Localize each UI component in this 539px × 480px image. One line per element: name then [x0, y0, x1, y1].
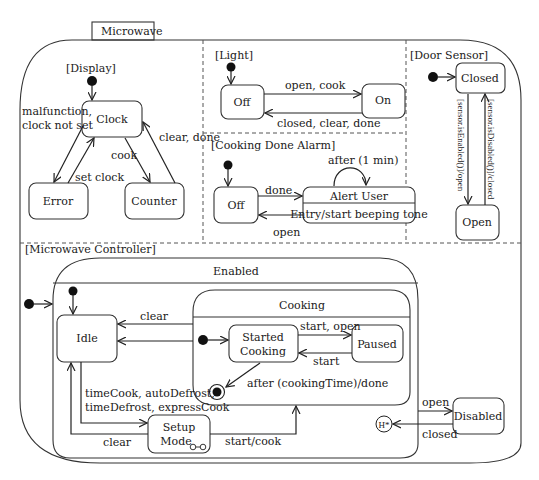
region-label-display: [Display] [66, 62, 116, 75]
transition-label-closed-clear-done: closed, clear, done [277, 117, 381, 130]
initial-state-icon [69, 287, 78, 296]
state-disabled-label: Disabled [454, 410, 503, 423]
transition-label-timecook: timeCook, autoDefrost, [85, 387, 215, 400]
initial-state-icon [227, 63, 236, 72]
state-alarm-off-label: Off [228, 199, 246, 212]
state-clock-label: Clock [96, 113, 128, 126]
initial-state-icon [224, 161, 233, 170]
transition-label-start-open: start, open [300, 320, 361, 333]
transition-label-malfunction: malfunction, [22, 105, 92, 118]
region-label-cooking-done-alarm: [Cooking Done Alarm] [211, 139, 335, 152]
state-setup-mode-label-1: Setup [163, 421, 196, 434]
region-display: [Display] Clock Error Counter malfunctio… [22, 62, 220, 219]
transition-label-cook: cook [111, 149, 137, 162]
diagram-title: Microwave [101, 25, 163, 38]
state-light-on-label: On [375, 94, 391, 107]
state-started-cooking-label-2: Cooking [240, 345, 286, 358]
transition-alert-self [334, 168, 366, 186]
initial-state-icon [24, 299, 34, 309]
state-cooking-label: Cooking [279, 299, 325, 312]
state-error-label: Error [43, 195, 74, 208]
transition-label-timedefrost: timeDefrost, expressCook [85, 401, 230, 414]
state-light-off-label: Off [234, 96, 252, 109]
transition-label-clear-cooking: clear [140, 310, 169, 323]
initial-state-icon [198, 335, 208, 345]
state-alert-user-entry: Entry/start beeping tone [290, 208, 427, 221]
initial-state-icon [87, 76, 97, 86]
transition-label-open-cook: open, cook [285, 79, 346, 92]
history-state-label: H* [379, 420, 390, 430]
transition-label-start-cook: start/cook [225, 435, 281, 448]
state-counter-label: Counter [131, 195, 177, 208]
transition-label-start: start [313, 355, 340, 368]
transition-label-after-1-min: after (1 min) [328, 154, 398, 167]
state-enabled-label: Enabled [213, 265, 259, 278]
transition-label-after-cooking-time: after (cookingTime)/done [247, 377, 388, 390]
state-paused-label: Paused [357, 338, 397, 351]
region-label-microwave-controller: [Microwave Controller] [25, 243, 156, 256]
region-label-door-sensor: [Door Sensor] [410, 49, 488, 62]
state-started-cooking-label-1: Started [242, 331, 284, 344]
state-door-open-label: Open [462, 216, 492, 229]
transition-label-set-clock: set clock [75, 171, 125, 184]
transition-label-open-enabled: open [422, 396, 449, 409]
initial-state-icon [428, 72, 438, 82]
state-door-closed-label: Closed [461, 72, 499, 85]
transition-label-closed-disabled: closed [422, 428, 458, 441]
region-microwave-controller: [Microwave Controller] Enabled Idle Cook… [24, 243, 504, 458]
transition-label-open: open [273, 226, 300, 239]
state-idle-label: Idle [76, 332, 97, 345]
transition-label-done: done [265, 184, 292, 197]
transition-label-sensor-disabled: [sensor.isDisabled()]/closed [486, 99, 496, 200]
transition-label-sensor-enabled: [sensor.isEnabled()]/open [456, 99, 466, 192]
state-setup-mode-label-2: Mode [160, 435, 191, 448]
state-alert-user-label: Alert User [329, 190, 389, 203]
state-machine-diagram: Microwave [Display] Clock Error Counter … [0, 0, 539, 480]
region-cooking-done-alarm: [Cooking Done Alarm] Off Alert User Entr… [211, 139, 428, 239]
region-light: [Light] Off On open, cook closed, clear,… [215, 49, 405, 130]
transition-label-clear-setup: clear [103, 436, 132, 449]
region-label-light: [Light] [215, 49, 253, 62]
transition-label-clock-not-set: clock not set [22, 119, 93, 132]
